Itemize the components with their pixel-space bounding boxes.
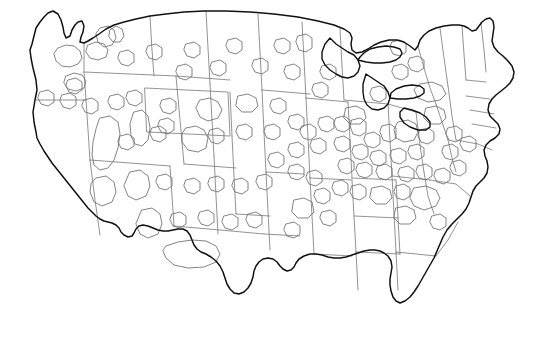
map-background [0, 0, 544, 350]
map-canvas [0, 0, 544, 350]
us-map-svg [0, 0, 544, 350]
